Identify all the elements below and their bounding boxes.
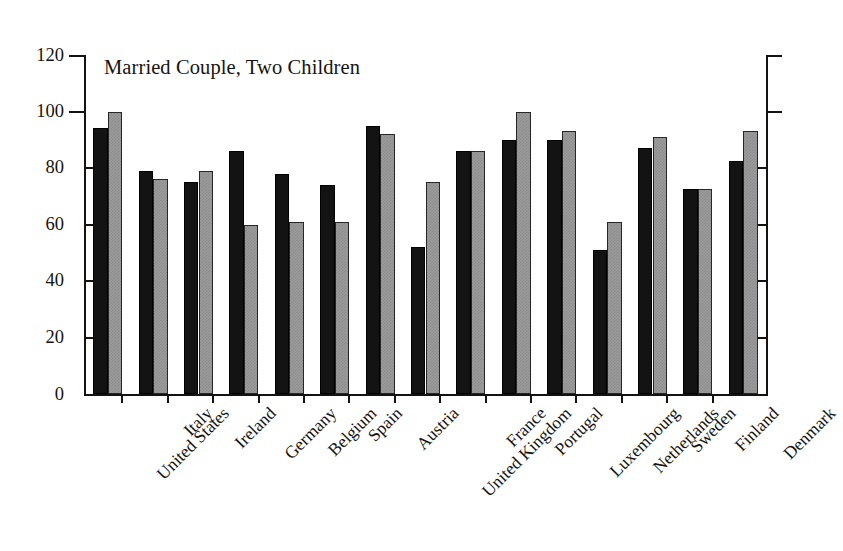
bar-series-dark-12 [638,148,653,394]
y-tick-right-100 [766,111,782,113]
bar-series-light-8 [471,151,486,394]
x-tick-2 [212,394,214,403]
x-tick-4 [303,394,305,403]
y-tick-label-120: 120 [8,46,64,65]
x-label-text: Denmark [779,403,840,464]
x-label-text: Austria [412,403,463,454]
y-tick-label-80: 80 [8,158,64,177]
x-tick-11 [621,394,623,403]
x-tick-5 [348,394,350,403]
bar-series-light-14 [743,131,758,394]
x-label-2: Ireland [230,403,280,453]
bar-series-light-5 [335,222,350,394]
x-tick-6 [394,394,396,403]
bar-chart: 120 100 80 60 40 20 0 Married Couple, Tw… [0,0,843,551]
x-tick-12 [666,394,668,403]
bar-series-dark-13 [683,189,698,394]
plot-area [85,55,766,394]
bar-series-dark-5 [320,185,335,394]
y-tick-right-120 [766,55,782,57]
bar-series-light-10 [562,131,577,394]
bar-series-light-7 [426,182,441,394]
x-tick-9 [530,394,532,403]
bar-series-light-13 [698,189,713,394]
x-label-6: Austria [412,403,463,454]
y-tick-label-0: 0 [8,385,64,404]
y-tick-label-60: 60 [8,215,64,234]
x-tick-3 [258,394,260,403]
bar-series-dark-11 [593,250,608,394]
bar-series-dark-3 [229,151,244,394]
bar-series-dark-8 [456,151,471,394]
y-tick-100 [69,111,85,113]
bar-series-dark-14 [729,161,744,394]
x-tick-0 [121,394,123,403]
bar-series-dark-4 [275,174,290,394]
bar-series-light-2 [199,171,214,394]
bar-series-dark-10 [547,140,562,394]
bar-series-dark-1 [139,171,154,394]
y-tick-label-40: 40 [8,271,64,290]
x-label-text: Finland [731,403,784,456]
bar-series-dark-9 [502,140,517,394]
x-label-text: Ireland [230,403,280,453]
bar-series-dark-7 [411,247,426,394]
x-label-13: Finland [731,403,784,456]
y-tick-label-20: 20 [8,328,64,347]
bar-series-dark-2 [184,182,199,394]
bar-series-light-6 [380,134,395,394]
y-tick-120 [69,55,85,57]
x-tick-1 [167,394,169,403]
bar-series-dark-6 [366,126,381,394]
x-label-14: Denmark [779,403,840,464]
bar-series-light-3 [244,225,259,395]
bar-series-light-4 [289,222,304,394]
x-tick-8 [485,394,487,403]
bar-series-light-12 [653,137,668,394]
bar-series-dark-0 [93,128,108,394]
bar-series-light-11 [607,222,622,394]
x-tick-10 [575,394,577,403]
y-tick-label-100: 100 [8,102,64,121]
x-tick-13 [712,394,714,403]
bar-series-light-0 [108,112,123,395]
x-tick-7 [439,394,441,403]
bar-series-light-9 [516,112,531,395]
x-label-3: Germany [280,403,341,464]
bar-series-light-1 [153,179,168,394]
x-label-text: Germany [280,403,341,464]
